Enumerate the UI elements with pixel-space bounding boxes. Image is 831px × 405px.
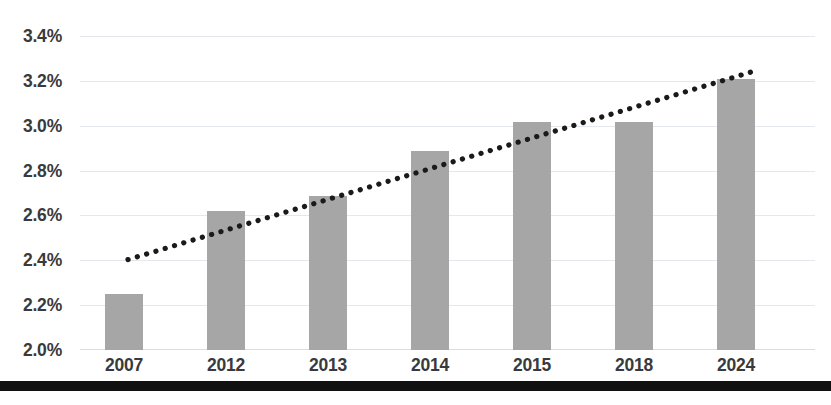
bar-2015[interactable] — [513, 122, 551, 350]
x-axis-tick-label-2012: 2012 — [207, 355, 245, 376]
gridline — [80, 36, 815, 37]
y-axis-tick-label: 2.6% — [23, 205, 62, 226]
x-axis-tick-label-2014: 2014 — [411, 355, 449, 376]
bar-2007[interactable] — [105, 294, 143, 350]
y-axis-tick-label: 2.0% — [23, 340, 62, 361]
x-axis-tick-label-2015: 2015 — [513, 355, 551, 376]
y-axis-tick-label: 3.2% — [23, 70, 62, 91]
x-axis-labels: 2007 2012 2013 2014 2015 2018 2024 — [80, 355, 815, 383]
bar-2014[interactable] — [411, 151, 449, 350]
bar-2012[interactable] — [207, 211, 245, 350]
plot-area — [80, 36, 815, 350]
y-axis-tick-label: 2.8% — [23, 160, 62, 181]
y-axis-labels: 3.4% 3.2% 3.0% 2.8% 2.6% 2.4% 2.2% 2.0% — [0, 0, 72, 405]
gridline — [80, 81, 815, 82]
y-axis-tick-label: 3.4% — [23, 26, 62, 47]
gridline — [80, 126, 815, 127]
x-axis-tick-label-2007: 2007 — [105, 355, 143, 376]
x-axis-tick-label-2018: 2018 — [615, 355, 653, 376]
bar-2024[interactable] — [717, 79, 755, 350]
y-axis-tick-label: 2.2% — [23, 295, 62, 316]
x-axis-tick-label-2024: 2024 — [717, 355, 755, 376]
x-axis-tick-label-2013: 2013 — [309, 355, 347, 376]
chart-container: 3.4% 3.2% 3.0% 2.8% 2.6% 2.4% 2.2% 2.0% … — [0, 0, 831, 405]
bottom-divider-rule — [0, 381, 831, 391]
bar-2018[interactable] — [615, 122, 653, 350]
y-axis-tick-label: 2.4% — [23, 250, 62, 271]
bar-2013[interactable] — [309, 196, 347, 350]
y-axis-tick-label: 3.0% — [23, 115, 62, 136]
